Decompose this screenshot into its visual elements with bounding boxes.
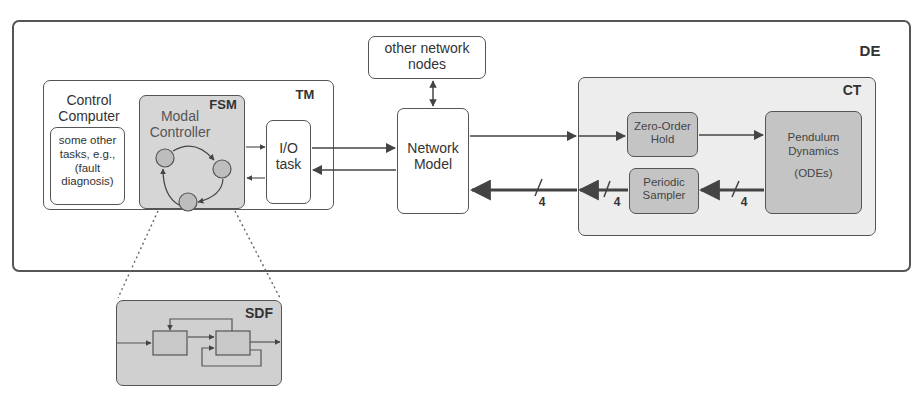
fsm-state xyxy=(179,193,197,211)
fsm-state xyxy=(156,149,174,167)
fsm-state xyxy=(213,160,231,178)
connection-wires xyxy=(0,0,923,408)
